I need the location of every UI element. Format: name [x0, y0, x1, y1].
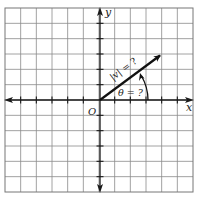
x-axis-label: x — [186, 101, 193, 114]
angle-label: θ = ? — [118, 87, 144, 98]
y-axis-label: y — [104, 6, 112, 19]
origin-label: O — [88, 106, 96, 117]
coordinate-plane-diagram: y x O |v| = ? θ = ? — [0, 0, 197, 198]
